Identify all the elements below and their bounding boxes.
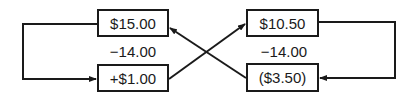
left-operator: −14.00 — [93, 43, 173, 60]
connector-lines — [0, 0, 415, 100]
right-top-box: $10.50 — [246, 9, 319, 37]
left-bottom-value: +$1.00 — [110, 70, 156, 87]
right-top-value: $10.50 — [260, 15, 306, 32]
left-top-box: $15.00 — [97, 9, 169, 37]
right-bottom-value: ($3.50) — [259, 69, 307, 86]
left-top-value: $15.00 — [110, 15, 156, 32]
left-bottom-box: +$1.00 — [97, 64, 169, 92]
right-bottom-box: ($3.50) — [246, 63, 319, 92]
right-operator: −14.00 — [244, 43, 324, 60]
left-loop-arrow — [23, 24, 97, 79]
right-loop-arrow — [319, 22, 395, 78]
